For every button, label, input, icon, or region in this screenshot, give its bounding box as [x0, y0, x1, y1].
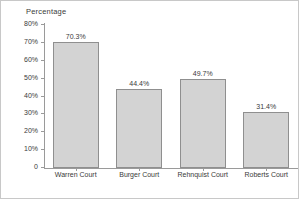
x-axis-category-label: Roberts Court: [244, 171, 288, 178]
x-axis-category-label: Warren Court: [55, 171, 97, 178]
y-axis-tick-label: 80%: [24, 20, 38, 27]
y-axis-tick-label: 40%: [24, 92, 38, 99]
y-axis-tick-label: 60%: [24, 56, 38, 63]
bar[interactable]: [53, 42, 99, 168]
bar-value-label: 44.4%: [129, 80, 149, 87]
bars-layer: 70.3%Warren Court44.4%Burger Court49.7%R…: [44, 1, 298, 199]
bar-value-label: 70.3%: [66, 33, 86, 40]
bar[interactable]: [180, 79, 226, 168]
x-axis-category-label: Rehnquist Court: [177, 171, 228, 178]
bar-value-label: 31.4%: [256, 103, 276, 110]
bar[interactable]: [116, 89, 162, 168]
y-axis-tick-label: 20%: [24, 127, 38, 134]
y-axis-tick-label: 0: [34, 163, 38, 170]
bar-group: 49.7%: [180, 25, 226, 168]
y-axis-tick-label: 50%: [24, 74, 38, 81]
bar-group: 31.4%: [243, 25, 289, 168]
y-axis-tick-label: 30%: [24, 109, 38, 116]
x-axis-category-label: Burger Court: [119, 171, 159, 178]
bar-group: 70.3%: [53, 25, 99, 168]
bar-group: 44.4%: [116, 25, 162, 168]
y-axis-tick-label: 10%: [24, 145, 38, 152]
bar[interactable]: [243, 112, 289, 168]
bar-value-label: 49.7%: [193, 70, 213, 77]
y-axis-tick-label: 70%: [24, 38, 38, 45]
bar-chart-figure: Percentage 80%70%60%50%40%30%20%10%0 70.…: [0, 0, 299, 199]
